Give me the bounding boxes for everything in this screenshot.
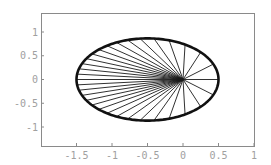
focal-ray <box>169 80 183 119</box>
orbit-plot: -1.5-1-0.500.51 10.50-0.5-1 <box>0 0 271 165</box>
y-axis-ticks: 10.50-0.5-1 <box>14 27 44 133</box>
plot-frame <box>42 14 255 147</box>
x-tick-label: -1 <box>106 150 118 161</box>
x-tick-label: -0.5 <box>135 150 159 161</box>
focal-ray <box>183 45 185 80</box>
focal-ray <box>183 80 185 115</box>
y-tick-label: 1 <box>32 27 38 38</box>
focal-ray <box>107 46 183 80</box>
x-tick-label: 0.5 <box>209 150 227 161</box>
focal-ray <box>169 40 183 79</box>
y-tick-label: -1 <box>26 122 38 133</box>
x-tick-label: 1 <box>251 150 257 161</box>
x-tick-label: 0 <box>180 150 186 161</box>
x-tick-label: -1.5 <box>64 150 88 161</box>
y-tick-label: -0.5 <box>14 98 38 109</box>
y-tick-label: 0 <box>32 74 38 85</box>
y-tick-label: 0.5 <box>20 50 38 61</box>
x-axis-ticks: -1.5-1-0.500.51 <box>64 143 257 161</box>
focal-ray <box>107 80 183 114</box>
